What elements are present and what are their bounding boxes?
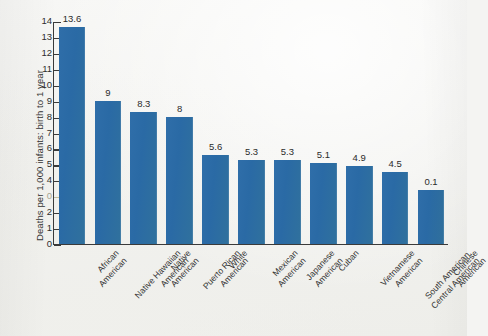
x-axis-category-label: VietnameseAmerican	[378, 248, 424, 295]
bar-value-label: 9	[105, 87, 110, 98]
bar-series: 13.698.385.65.35.35.14.94.50.1	[54, 22, 448, 244]
y-tick-label: 8	[32, 111, 52, 122]
bar[interactable]	[130, 112, 157, 244]
y-tick-label: 7	[32, 127, 52, 138]
y-tick-label: 10	[32, 79, 52, 90]
bar-value-label: 4.5	[389, 158, 402, 169]
y-tick-label: 6	[32, 142, 52, 153]
y-tick-label: 9	[32, 95, 52, 106]
bar[interactable]	[95, 101, 122, 244]
bar-value-label: 8.3	[137, 98, 150, 109]
x-axis-category-label: Cuban	[336, 248, 361, 274]
bar[interactable]	[310, 163, 337, 244]
bar-slot: 5.3	[274, 21, 301, 244]
bar-slot: 5.3	[238, 21, 265, 244]
bar[interactable]	[166, 117, 193, 244]
bar[interactable]	[59, 27, 86, 244]
x-axis-category-labels: AfricanAmericanNative HawaiianAmericanNa…	[53, 248, 448, 336]
y-tick-label: 4	[32, 174, 52, 185]
bar[interactable]	[346, 166, 373, 244]
bar[interactable]	[382, 172, 409, 244]
y-tick-label: 14	[32, 15, 52, 26]
bar-slot: 0.1	[418, 21, 445, 244]
bar-slot: 4.5	[382, 21, 409, 244]
bar-value-label: 5.3	[245, 146, 258, 157]
bar-value-label: 13.6	[63, 13, 82, 24]
y-tick-label: 0	[32, 190, 52, 201]
y-tick-label: 2	[32, 206, 52, 217]
bar-value-label: 4.9	[353, 152, 366, 163]
y-tick-label: 11	[32, 63, 52, 74]
bar-slot: 5.1	[310, 21, 337, 244]
y-tick-label: 5	[32, 158, 52, 169]
x-axis-category-label: AfricanAmerican	[88, 248, 128, 289]
bar-slot: 4.9	[346, 21, 373, 244]
bar-slot: 8	[166, 21, 193, 244]
y-tick-label: 1	[32, 222, 52, 233]
x-axis-category-label: MexicanAmerican	[268, 248, 308, 289]
bar-value-label: 5.6	[209, 141, 222, 152]
bar-value-label: 8	[177, 103, 182, 114]
bar-value-label: 5.1	[317, 149, 330, 160]
bar-value-label: 0.1	[424, 176, 437, 187]
bar-slot: 13.6	[59, 21, 86, 244]
bar[interactable]	[238, 160, 265, 244]
y-tick-label: 0	[32, 238, 52, 249]
y-tick-mark	[54, 245, 61, 246]
bar[interactable]	[418, 190, 445, 244]
bar-slot: 5.6	[202, 21, 229, 244]
plot-area: 14131211109876540210 13.698.385.65.35.35…	[53, 22, 448, 245]
bar-value-label: 5.3	[281, 146, 294, 157]
bar[interactable]	[274, 160, 301, 244]
bar-slot: 8.3	[130, 21, 157, 244]
bar-slot: 9	[95, 21, 122, 244]
y-tick-label: 12	[32, 47, 52, 58]
bar[interactable]	[202, 155, 229, 244]
y-tick-label: 13	[32, 31, 52, 42]
